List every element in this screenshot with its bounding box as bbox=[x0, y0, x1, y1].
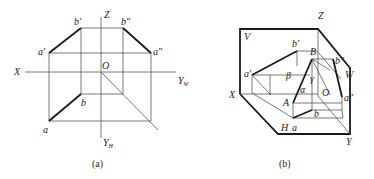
label-alpha: α bbox=[300, 84, 306, 95]
label-o: O bbox=[102, 60, 109, 71]
label-b: b bbox=[81, 97, 86, 108]
panel-a: Z X O YW YH b′ a′ b″ a″ b a (a) bbox=[13, 9, 190, 170]
label-yh: YH bbox=[103, 137, 114, 149]
label-o: O bbox=[322, 87, 329, 98]
label-gamma: γ bbox=[310, 73, 315, 84]
label-a-prime: a′ bbox=[244, 68, 252, 79]
caption-b: (b) bbox=[279, 158, 291, 170]
projection-diagram: Z X O YW YH b′ a′ b″ a″ b a (a) bbox=[0, 0, 374, 179]
label-b: b bbox=[314, 108, 319, 119]
front-view-ab bbox=[49, 28, 81, 53]
label-z: Z bbox=[104, 9, 110, 20]
label-a-prime: a′ bbox=[38, 46, 46, 57]
label-z: Z bbox=[318, 10, 324, 21]
h-projection-ab bbox=[293, 110, 312, 118]
label-a-dprime: a″ bbox=[153, 46, 163, 57]
label-A: A bbox=[282, 97, 290, 108]
label-h: H bbox=[280, 122, 289, 133]
side-view-ab bbox=[123, 28, 151, 53]
label-beta: β bbox=[285, 70, 291, 81]
label-a: a bbox=[292, 122, 297, 133]
label-b-prime: b′ bbox=[74, 16, 82, 27]
label-v: V bbox=[244, 31, 252, 42]
label-w: W bbox=[345, 69, 355, 80]
panel-b: Z V X Y W H a b O b′ a′ b″ a″ B A β γ α … bbox=[228, 10, 355, 170]
caption-a: (a) bbox=[92, 158, 103, 170]
label-y: Y bbox=[346, 136, 353, 147]
label-a-dprime: a″ bbox=[344, 92, 354, 103]
top-view-ab bbox=[49, 94, 81, 121]
label-yw: YW bbox=[178, 75, 190, 87]
label-b-dprime: b″ bbox=[121, 16, 131, 27]
label-b-dprime: b″ bbox=[335, 55, 345, 66]
label-x: X bbox=[13, 66, 21, 77]
label-a: a bbox=[43, 124, 48, 135]
label-x: X bbox=[228, 89, 236, 100]
label-B: B bbox=[310, 46, 316, 57]
a-prime-diag bbox=[252, 75, 271, 95]
label-b-prime: b′ bbox=[292, 38, 300, 49]
a-dprime-corner bbox=[342, 110, 343, 118]
